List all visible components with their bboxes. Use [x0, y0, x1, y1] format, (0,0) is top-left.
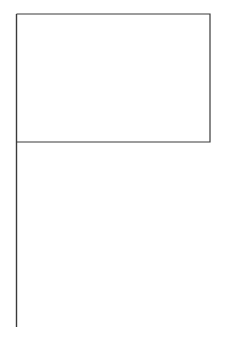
flag-drawing-canvas	[0, 0, 230, 337]
flag-line-drawing	[0, 0, 230, 337]
flag-banner-fill	[17, 14, 211, 142]
